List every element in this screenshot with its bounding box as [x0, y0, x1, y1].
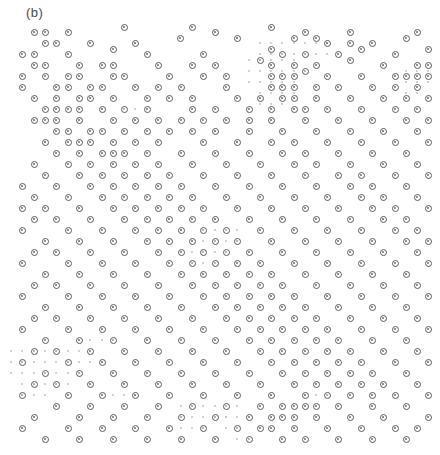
data-point-primary: [144, 51, 151, 58]
data-point-primary: [121, 150, 128, 157]
data-point-primary: [19, 51, 26, 58]
data-point-primary: [268, 392, 275, 399]
data-point-primary: [313, 62, 320, 69]
data-point-secondary: [10, 361, 12, 363]
data-point-primary: [335, 359, 342, 366]
data-point-primary: [189, 128, 196, 135]
data-point-primary: [291, 227, 298, 234]
data-point-primary: [392, 73, 399, 80]
data-point-primary: [65, 293, 72, 300]
data-point-secondary: [191, 427, 193, 429]
data-point-primary: [335, 403, 342, 410]
data-point-primary: [223, 315, 230, 322]
data-point-primary: [87, 139, 94, 146]
data-point-primary: [358, 194, 365, 201]
data-point-primary: [246, 216, 253, 223]
data-point-primary: [403, 238, 410, 245]
data-point-primary: [76, 62, 83, 69]
data-point-primary: [246, 315, 253, 322]
data-point-primary: [257, 425, 264, 432]
data-point-primary: [166, 359, 173, 366]
data-point-primary: [166, 73, 173, 80]
data-point-primary: [268, 139, 275, 146]
data-point-primary: [99, 194, 106, 201]
data-point-secondary: [236, 416, 238, 418]
data-point-primary: [279, 414, 286, 421]
data-point-primary: [302, 117, 309, 124]
data-point-primary: [414, 194, 421, 201]
data-point-primary: [65, 326, 72, 333]
data-point-primary: [392, 359, 399, 366]
data-point-secondary: [259, 42, 261, 44]
data-point-primary: [121, 216, 128, 223]
data-point-primary: [279, 304, 286, 311]
data-point-primary: [257, 227, 264, 234]
data-point-primary: [155, 161, 162, 168]
data-point-primary: [268, 293, 275, 300]
data-point-primary: [358, 293, 365, 300]
data-point-primary: [302, 436, 309, 443]
data-point-primary: [121, 24, 128, 31]
data-point-primary: [302, 172, 309, 179]
data-point-secondary: [248, 70, 250, 72]
data-point-primary: [178, 84, 185, 91]
data-point-primary: [414, 106, 421, 113]
data-point-primary: [414, 315, 421, 322]
data-point-primary: [166, 425, 173, 432]
data-point-secondary: [89, 361, 91, 363]
data-point-primary: [53, 403, 60, 410]
data-point-primary: [380, 348, 387, 355]
data-point-secondary: [21, 372, 23, 374]
data-point-primary: [291, 403, 298, 410]
data-point-secondary: [248, 59, 250, 61]
data-point-primary: [200, 326, 207, 333]
data-point-primary: [200, 139, 207, 146]
data-point-secondary: [270, 42, 272, 44]
data-point-primary: [302, 370, 309, 377]
data-point-primary: [132, 260, 139, 267]
data-point-primary: [110, 150, 117, 157]
data-point-primary: [166, 293, 173, 300]
data-point-primary: [313, 249, 320, 256]
data-point-secondary: [44, 350, 46, 352]
data-point-primary: [31, 194, 38, 201]
data-point-primary: [279, 249, 286, 256]
data-point-primary: [65, 29, 72, 36]
data-point-primary: [414, 381, 421, 388]
data-point-primary: [392, 205, 399, 212]
data-point-primary: [121, 194, 128, 201]
data-point-primary: [212, 304, 219, 311]
data-point-primary: [99, 128, 106, 135]
data-point-primary: [42, 139, 49, 146]
data-point-secondary: [202, 416, 204, 418]
data-point-primary: [347, 95, 354, 102]
data-point-secondary: [304, 42, 306, 44]
data-point-primary: [268, 315, 275, 322]
data-point-secondary: [33, 372, 35, 374]
data-point-primary: [178, 150, 185, 157]
data-point-primary: [65, 161, 72, 168]
data-point-secondary: [21, 383, 23, 385]
data-point-primary: [369, 304, 376, 311]
data-point-primary: [246, 293, 253, 300]
data-point-primary: [53, 150, 60, 157]
data-point-primary: [87, 95, 94, 102]
data-point-primary: [234, 392, 241, 399]
data-point-secondary: [123, 394, 125, 396]
data-point-primary: [76, 106, 83, 113]
data-point-secondary: [21, 350, 23, 352]
data-point-primary: [166, 216, 173, 223]
data-point-secondary: [10, 372, 12, 374]
data-point-secondary: [293, 59, 295, 61]
data-point-primary: [324, 139, 331, 146]
data-point-primary: [99, 172, 106, 179]
data-point-primary: [358, 46, 365, 53]
data-point-primary: [31, 414, 38, 421]
data-point-primary: [403, 216, 410, 223]
data-point-primary: [189, 161, 196, 168]
data-point-primary: [87, 282, 94, 289]
data-point-primary: [234, 326, 241, 333]
data-point-primary: [268, 425, 275, 432]
data-point-primary: [99, 326, 106, 333]
data-point-primary: [369, 271, 376, 278]
